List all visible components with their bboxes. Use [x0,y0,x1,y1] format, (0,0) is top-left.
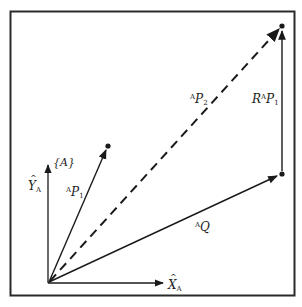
label-aq: AQ [194,220,210,234]
frame-label: {A} [53,156,75,169]
y-hat-icon: ^ [30,173,37,182]
label-ap2: AP2 [189,92,208,107]
x-hat-icon: ^ [170,272,177,281]
point-q [279,171,284,176]
point-p2 [279,23,284,28]
label-rap1: RAP1 [251,92,279,107]
label-ap1: AP1 [65,185,84,200]
vector-diagram: {A} YA ^ XA ^ AP1 AP2 RAP1 AQ [0,0,302,307]
vector-ap2-dashed [50,29,279,281]
vector-ap1 [49,150,106,282]
point-p1 [105,143,110,148]
diagram-border [11,12,295,296]
